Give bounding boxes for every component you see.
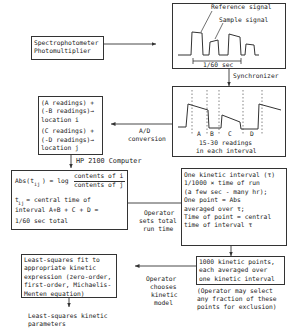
- least-squares-line: first-order, Michaelis-: [24, 281, 114, 289]
- kinetic-points-line: each averaged over: [199, 266, 282, 274]
- locations-line: (-B readings)→: [41, 107, 100, 115]
- output-label: parameters: [28, 320, 66, 328]
- locations-line: location i: [41, 116, 100, 124]
- kinetic-interval-line: One kinetic interval (τ): [184, 171, 284, 179]
- operator-label: run time: [143, 225, 173, 233]
- operator-model-label: model: [154, 299, 173, 307]
- abs-log: ) = log: [42, 177, 69, 185]
- time-line: 1/60 sec total: [15, 217, 68, 225]
- exclusion-note: points for exclusion): [197, 303, 277, 311]
- kinetic-interval-line: averaged over τ;: [184, 205, 284, 213]
- abs-prefix: Abs(t: [15, 177, 34, 185]
- time-line: t = central time of: [15, 196, 91, 204]
- interval-caption: in each interval: [196, 147, 257, 155]
- least-squares-box: Least-squares fit to appropriate kinetic…: [21, 254, 117, 298]
- locations-box: (A readings) + (-B readings)→ location i…: [38, 96, 103, 155]
- kinetic-interval-line: Time of point = central: [184, 213, 284, 221]
- conversion-label: conversion: [128, 135, 166, 143]
- locations-line: (-D readings)→: [41, 136, 100, 144]
- abs-denominator: contents of j: [74, 181, 123, 189]
- least-squares-line: Least-squares fit to: [24, 256, 114, 264]
- sample-signal-label: Sample signal: [219, 16, 268, 24]
- kinetic-points-line: one kinetic interval: [199, 275, 282, 283]
- reference-signal-label: Reference signal: [211, 3, 272, 11]
- least-squares-line: appropriate kinetic: [24, 264, 114, 272]
- kinetic-interval-box: One kinetic interval (τ) 1/1000 × time o…: [181, 168, 287, 246]
- computer-box: Abs(t ij ) = log contents of i contents …: [11, 170, 128, 230]
- least-squares-line: expression (zero-order,: [24, 273, 114, 281]
- time-line: interval A+B + C + D =: [15, 206, 98, 214]
- interval-a-label: A: [197, 130, 201, 138]
- locations-line: (A readings) +: [41, 99, 100, 107]
- period-label: 1/60 sec: [203, 61, 233, 69]
- kinetic-interval-line: One point = Abs: [184, 196, 284, 204]
- computer-label: HP 2100 Computer: [76, 157, 141, 165]
- photomultiplier-label: Photomultiplier: [34, 47, 101, 55]
- interval-b-label: B: [210, 130, 214, 138]
- kinetic-interval-line: (a few sec - many hr);: [184, 188, 284, 196]
- abs-numerator: contents of i: [74, 172, 123, 180]
- kinetic-interval-line: time of interval τ: [184, 221, 284, 229]
- spectrophotometer-box: Spectrophotometer Photomultiplier: [31, 36, 104, 60]
- synchronizer-label: Synchronizer: [233, 72, 279, 80]
- locations-line: location j: [41, 144, 100, 152]
- kinetic-points-box: 1000 kinetic points, each averaged over …: [196, 256, 285, 285]
- spectrophotometer-label: Spectrophotometer: [34, 39, 101, 47]
- signal-box: [172, 3, 286, 69]
- interval-c-label: C: [228, 130, 232, 138]
- kinetic-points-line: 1000 kinetic points,: [199, 258, 282, 266]
- abs-subscript: ij: [34, 180, 40, 188]
- locations-line: (C readings) +: [41, 127, 100, 135]
- interval-d-label: D: [250, 130, 254, 138]
- least-squares-line: Menten equation): [24, 290, 114, 298]
- kinetic-interval-line: 1/1000 × time of run: [184, 179, 284, 187]
